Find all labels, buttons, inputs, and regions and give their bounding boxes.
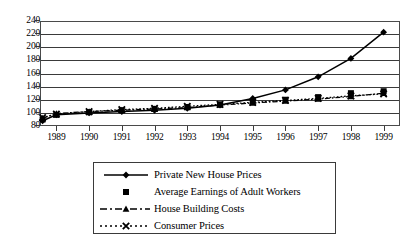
legend-item-label: House Building Costs (154, 203, 244, 214)
data-point-marker (123, 222, 129, 228)
legend: Private New House PricesAverage Earnings… (93, 162, 336, 234)
x-axis-tick-mark (351, 126, 352, 131)
series-layer (40, 21, 400, 126)
x-axis-tick-label: 1999 (364, 132, 404, 142)
legend-item[interactable]: Average Earnings of Adult Workers (94, 183, 335, 200)
data-point-marker (123, 171, 130, 178)
legend-x-icon (98, 218, 154, 234)
legend-item-label: Private New House Prices (154, 169, 262, 180)
line-chart: 80100120140160180200220240 1989199019911… (0, 0, 413, 248)
x-axis-tick-mark (122, 126, 123, 131)
legend-triangle-icon (98, 201, 154, 217)
legend-diamond-icon (98, 167, 154, 183)
data-point-marker (282, 87, 289, 94)
x-axis-tick-mark (187, 126, 188, 131)
x-axis-tick-mark (89, 126, 90, 131)
data-point-marker (123, 205, 130, 211)
data-point-marker (123, 189, 129, 195)
x-axis-tick-mark (155, 126, 156, 131)
x-axis-tick-mark (220, 126, 221, 131)
x-axis-tick-mark (285, 126, 286, 131)
series-line (43, 32, 384, 121)
x-axis-tick-mark (56, 126, 57, 131)
x-axis-tick-mark (384, 126, 385, 131)
series-house-building-costs (39, 90, 387, 121)
x-axis: 1989199019911992199319941995199619971998… (0, 126, 413, 156)
legend-item[interactable]: House Building Costs (94, 200, 335, 217)
legend-square-icon (98, 184, 154, 200)
data-point-marker (315, 73, 322, 80)
series-line (43, 93, 384, 118)
legend-item[interactable]: Private New House Prices (94, 166, 335, 183)
legend-item-label: Consumer Prices (154, 220, 224, 231)
x-axis-tick-mark (253, 126, 254, 131)
legend-item-label: Average Earnings of Adult Workers (154, 186, 301, 197)
legend-item[interactable]: Consumer Prices (94, 217, 335, 234)
x-axis-tick-mark (318, 126, 319, 131)
y-axis: 80100120140160180200220240 (0, 0, 40, 248)
